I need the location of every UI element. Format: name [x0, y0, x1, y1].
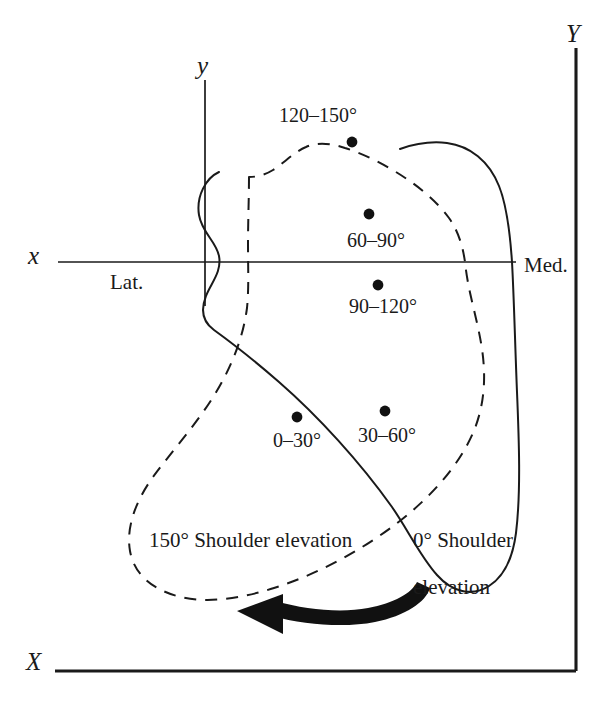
- datapoint-label-90-120: 90–120°: [308, 295, 458, 317]
- y-axis-outer-label: Y: [566, 20, 580, 48]
- lateral-direction-label: Lat.: [110, 271, 143, 295]
- figure-canvas: Y X y x Lat. Med. 120–150° 60–90° 90–120…: [0, 0, 607, 707]
- contour-annotation-150-line1: 150° Shoulder elevation: [149, 528, 352, 552]
- datapoint-120-150: [347, 137, 358, 148]
- x-axis-inner-label: x: [28, 242, 39, 270]
- datapoint-30-60: [380, 406, 391, 417]
- contour-annotation-0-line2: elevation: [413, 575, 490, 599]
- datapoint-label-60-90: 60–90°: [306, 229, 446, 251]
- datapoint-90-120: [373, 280, 384, 291]
- contour-annotation-150-degree: 150° Shoulder elevation: [128, 505, 352, 576]
- contour-annotation-0-line1: 0° Shoulder: [413, 528, 513, 552]
- datapoint-label-30-60: 30–60°: [315, 424, 459, 446]
- datapoint-label-120-150: 120–150°: [243, 104, 393, 126]
- y-axis-inner-label: y: [197, 52, 208, 80]
- x-axis-outer-label: X: [26, 648, 41, 676]
- datapoint-60-90: [364, 209, 375, 220]
- contour-annotation-0-degree: 0° Shoulder elevation: [392, 505, 513, 623]
- medial-direction-label: Med.: [524, 254, 568, 278]
- datapoint-0-30: [292, 412, 303, 423]
